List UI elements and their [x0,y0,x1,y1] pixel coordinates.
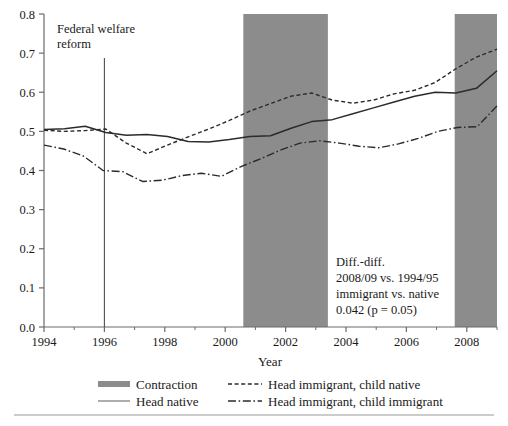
legend-label-4: Head immigrant, child immigrant [268,394,443,409]
y-tick-label: 0.7 [19,47,35,61]
contraction-band-2 [455,14,497,327]
legend-swatch-contraction [98,381,130,387]
annotation-line-3: immigrant vs. native [336,287,440,301]
welfare-participation-line-chart: 0.00.10.20.30.40.50.60.70.8 199419961998… [0,0,508,426]
x-tick-label: 2004 [334,335,360,349]
x-tick-label: 1996 [92,335,117,349]
x-tick-label: 1998 [152,335,177,349]
chart-figure: 0.00.10.20.30.40.50.60.70.8 199419961998… [0,0,508,426]
y-tick-label: 0.5 [19,125,35,139]
annotation-line-4: 0.042 (p = 0.05) [336,303,417,317]
y-tick-label: 0.0 [19,321,35,335]
annotation-line-2: 2008/09 vs. 1994/95 [336,271,438,285]
x-tick-label: 2008 [454,335,479,349]
x-axis-title: Year [258,354,283,369]
x-tick-label: 2006 [394,335,419,349]
x-tick-label: 2000 [213,335,238,349]
y-tick-label: 0.6 [19,86,35,100]
legend-label-3: Head immigrant, child native [268,377,421,392]
x-tick-label: 1994 [32,335,58,349]
y-tick-label: 0.8 [19,8,35,22]
y-tick-label: 0.3 [19,203,35,217]
welfare-reform-label-line2: reform [57,37,91,51]
y-tick-label: 0.1 [19,281,35,295]
x-tick-label: 2002 [273,335,298,349]
welfare-reform-label-line1: Federal welfare [57,22,136,36]
legend-label-1: Contraction [136,377,198,392]
contraction-band-1 [243,14,328,327]
y-tick-label: 0.2 [19,242,35,256]
annotation-line-1: Diff.-diff. [336,255,385,269]
y-tick-label: 0.4 [19,164,35,178]
legend-label-2: Head native [136,394,199,409]
